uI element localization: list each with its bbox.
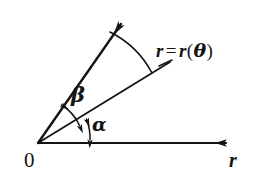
curve-equation-paren-close: ): [207, 40, 214, 61]
curve-equation-rhs: r: [179, 40, 187, 61]
figure-drawing-canvas: [0, 0, 262, 186]
beta-label: β: [71, 84, 85, 105]
axis-r-label: r: [229, 150, 237, 170]
alpha-arc: [87, 119, 91, 140]
curve-equation-theta: θ: [193, 39, 206, 61]
curve-equation-equals: =: [164, 40, 179, 61]
curve-equation-label: r=r(θ): [156, 41, 213, 60]
curve-equation-lhs: r: [156, 40, 164, 61]
alpha-label: α: [92, 115, 107, 134]
theta-arc: [110, 32, 152, 73]
polar-angle-figure: 0 r α β r=r(θ): [0, 0, 262, 186]
origin-label: 0: [24, 150, 35, 171]
